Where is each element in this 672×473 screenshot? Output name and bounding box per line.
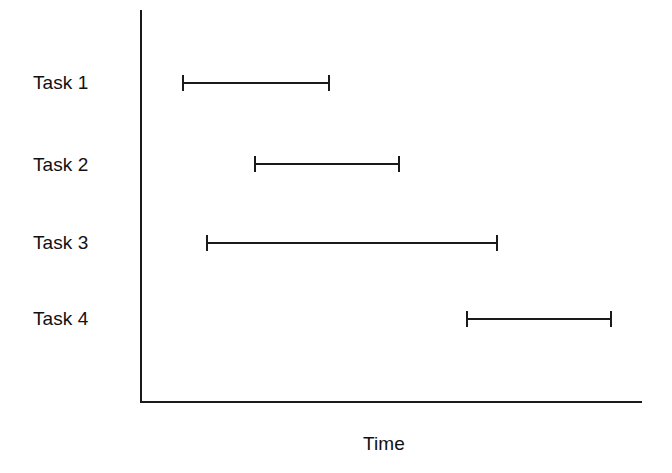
task-bar-task-4 [466, 310, 612, 328]
task-bar-end-cap [610, 311, 612, 327]
task-bar-end-cap [398, 156, 400, 172]
task-label-task-1: Task 1 [33, 73, 89, 92]
task-bar-end-cap [328, 75, 330, 91]
task-bar-line [206, 242, 498, 244]
task-bar-line [254, 163, 400, 165]
task-bar-task-1 [182, 74, 330, 92]
task-bar-line [466, 318, 612, 320]
task-bar-line [182, 82, 330, 84]
task-bar-task-2 [254, 155, 400, 173]
x-axis-title: Time [363, 434, 405, 453]
task-label-task-3: Task 3 [33, 233, 89, 252]
y-axis-line [140, 10, 142, 403]
task-bar-end-cap [496, 235, 498, 251]
task-label-task-2: Task 2 [33, 155, 89, 174]
x-axis-line [140, 401, 642, 403]
gantt-chart: Task 1 Task 2 Task 3 Task 4 Time [0, 0, 672, 473]
task-bar-task-3 [206, 234, 498, 252]
task-label-task-4: Task 4 [33, 309, 89, 328]
